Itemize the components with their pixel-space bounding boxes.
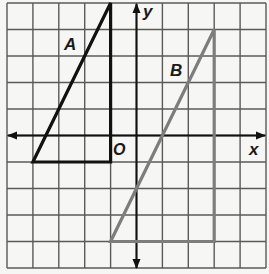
label-triangle-b: B <box>170 62 182 79</box>
label-y-axis: y <box>143 3 152 20</box>
label-x-axis: x <box>249 141 258 158</box>
label-triangle-a: A <box>64 36 76 53</box>
coordinate-plane: A B O x y <box>0 0 269 274</box>
label-origin: O <box>113 142 125 158</box>
grid-svg <box>0 0 269 274</box>
